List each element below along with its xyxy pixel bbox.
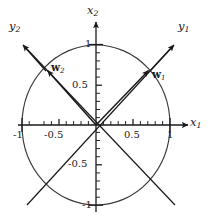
rotated-axis-2-label: y2 <box>9 21 20 33</box>
vector-w1 <box>96 71 149 126</box>
y-tick-label-0-5: 0.5 <box>72 80 88 90</box>
y-tick-label-1: 1 <box>85 39 91 49</box>
rotated-axis-2-arrow <box>23 45 46 71</box>
y-tick-label-neg1: -1 <box>82 200 92 210</box>
x-axis-label: x1 <box>190 117 201 129</box>
y-axis-label: x2 <box>87 5 98 17</box>
x-tick-label-0-5: 0.5 <box>124 130 140 140</box>
x-tick-label-neg0-5: -0.5 <box>44 130 63 140</box>
x-tick-label-1: 1 <box>167 130 173 140</box>
vector-w2-label: w2 <box>51 62 65 73</box>
y-tick-label-neg0-5: -0.5 <box>68 159 87 169</box>
coordinate-diagram: x1 x2 y1 y2 w1 w2 -1 -0.5 0.5 1 1 0.5 -0… <box>0 0 216 217</box>
rotated-axis-1-label: y1 <box>178 21 189 33</box>
x-tick-label-neg1: -1 <box>13 130 23 140</box>
vector-w1-label: w1 <box>152 69 166 80</box>
